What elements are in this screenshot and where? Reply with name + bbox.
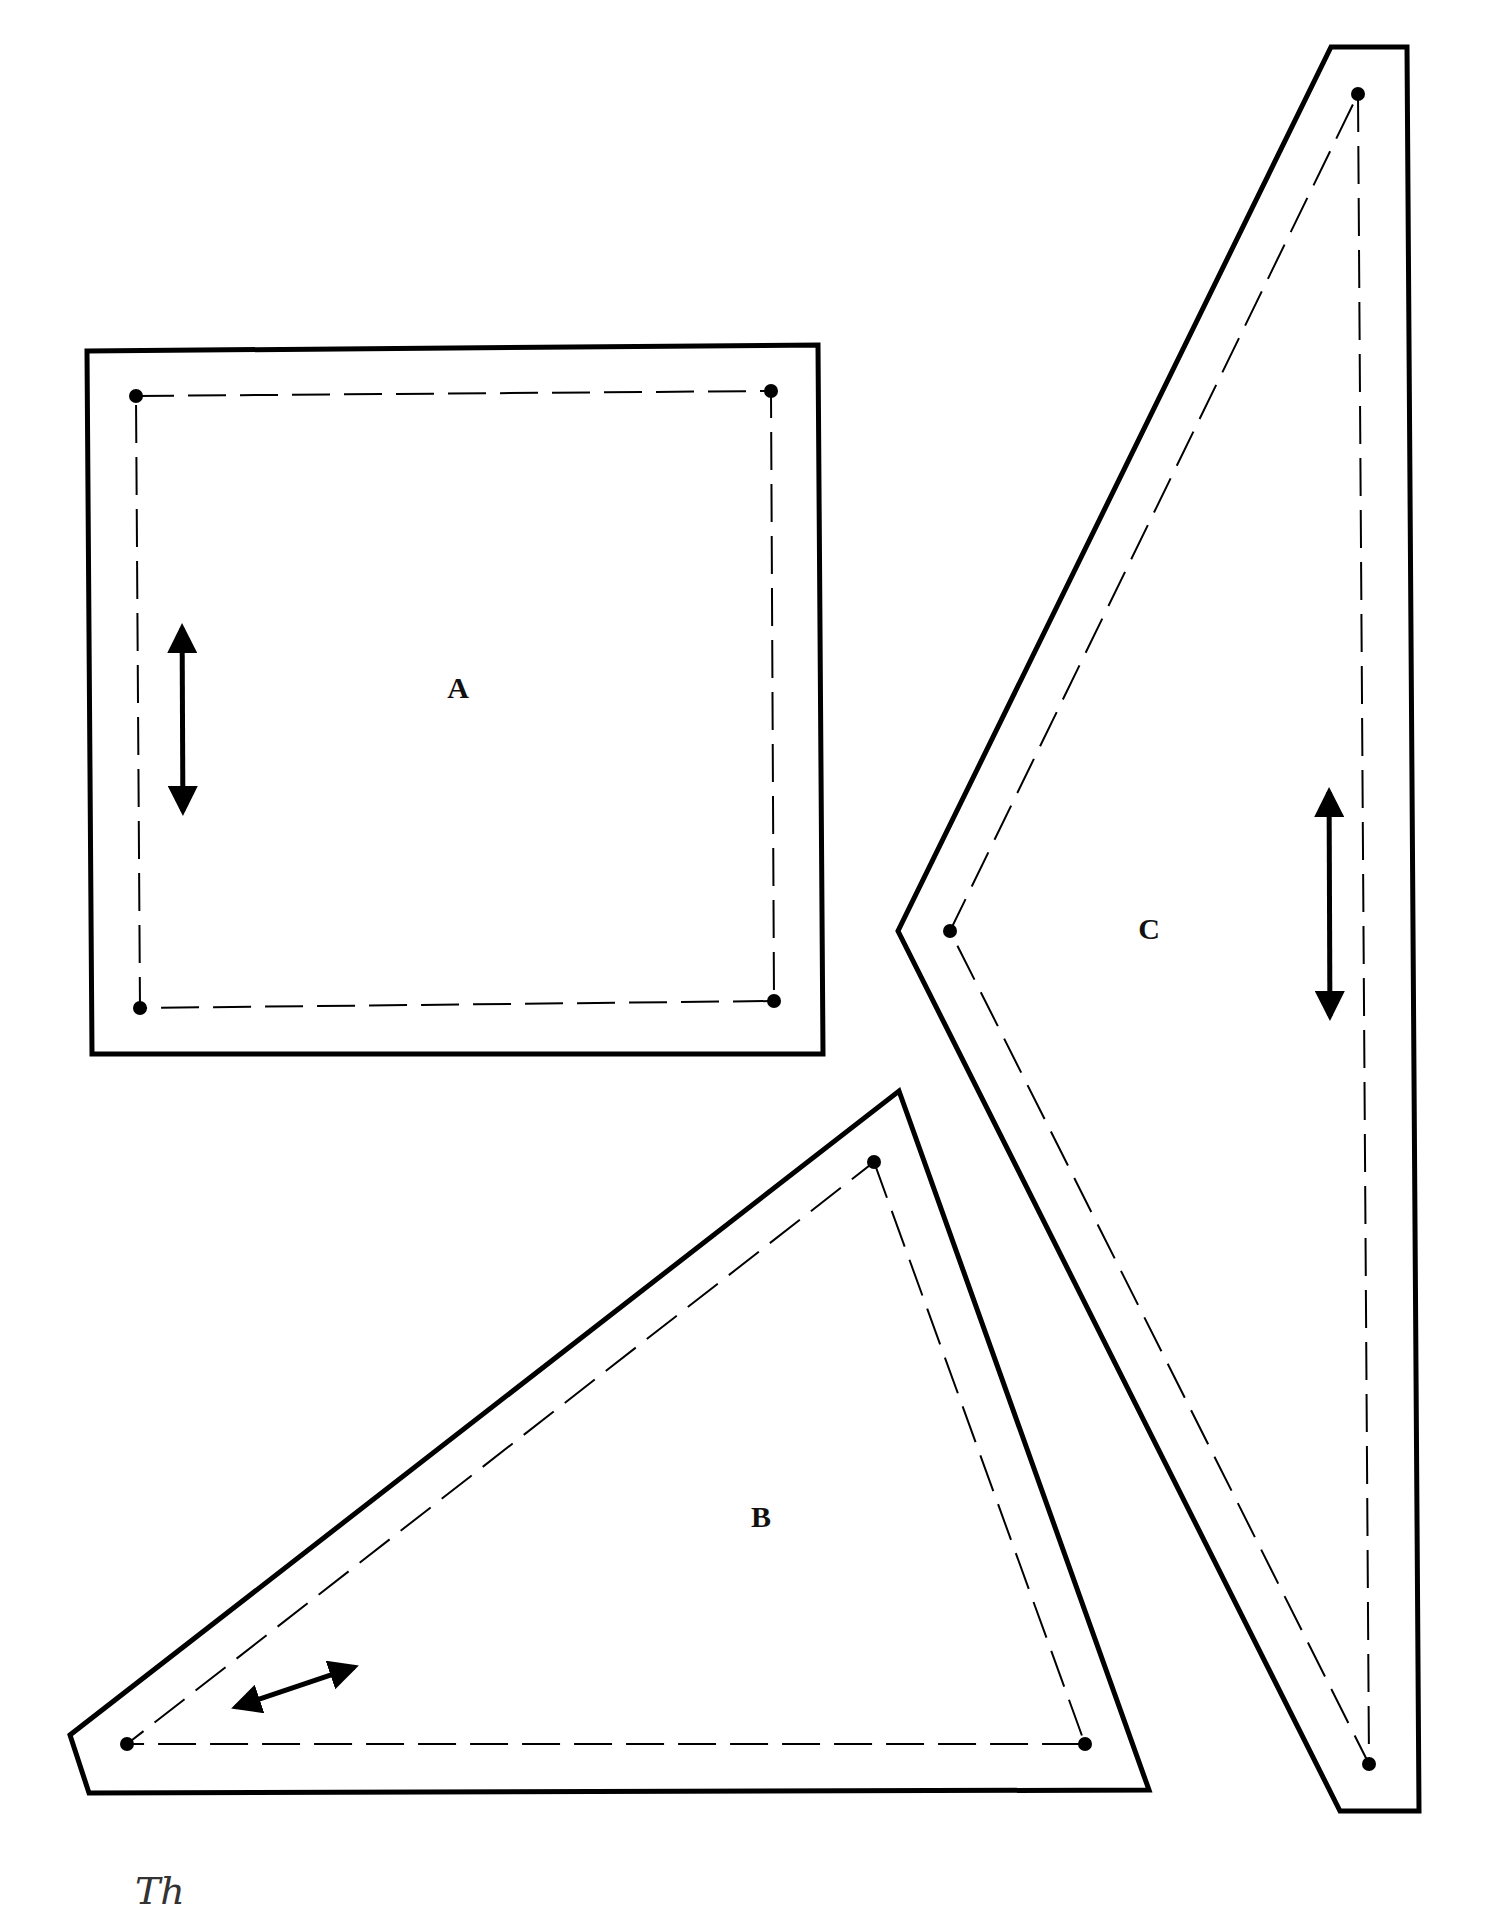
piece-b-label: B — [751, 1502, 771, 1532]
seam-corner-dot — [1078, 1737, 1092, 1751]
seam-corner-dot — [1362, 1757, 1376, 1771]
footer-cursive-mark: Th — [135, 1872, 185, 1908]
piece-b-seam-line — [127, 1162, 1085, 1744]
piece-b-grain-arrow-icon — [236, 1667, 354, 1707]
piece-c-label: C — [1138, 914, 1160, 944]
piece-c-grain-arrow-icon — [1329, 792, 1330, 1016]
seam-corner-dot — [943, 924, 957, 938]
piece-a-label: A — [447, 673, 469, 703]
seam-corner-dot — [1351, 87, 1365, 101]
piece-b-corner-dots — [120, 1155, 1092, 1751]
piece-b-triangle — [70, 1091, 1149, 1793]
piece-b-cut-line — [70, 1091, 1149, 1793]
seam-corner-dot — [867, 1155, 881, 1169]
seam-corner-dot — [120, 1737, 134, 1751]
seam-corner-dot — [764, 384, 778, 398]
piece-a-grain-arrow-icon — [182, 628, 183, 811]
seam-corner-dot — [767, 994, 781, 1008]
seam-corner-dot — [133, 1001, 147, 1015]
seam-corner-dot — [129, 389, 143, 403]
